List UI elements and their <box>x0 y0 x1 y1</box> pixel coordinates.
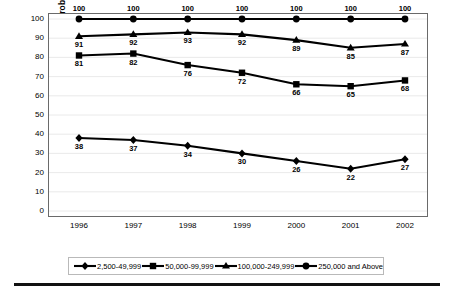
diamond-marker-icon <box>73 260 97 272</box>
data-point-marker <box>239 16 246 23</box>
x-tick-label: 1997 <box>124 221 142 230</box>
data-label: 100 <box>290 5 303 13</box>
chart-page: Percent Reporting Gang Problems 01020304… <box>0 0 454 295</box>
data-point-marker <box>76 16 83 23</box>
data-point-marker <box>130 136 137 144</box>
y-tick-label: 100 <box>20 15 44 23</box>
bottom-divider <box>14 283 440 286</box>
data-label: 100 <box>236 5 249 13</box>
data-label: 100 <box>399 5 412 13</box>
legend-item-label: 50,000-99,999 <box>165 262 213 271</box>
triangle-marker-icon <box>214 260 238 272</box>
y-tick-label: 90 <box>20 34 44 42</box>
x-tick-label: 1999 <box>233 221 251 230</box>
data-point-marker <box>303 263 310 270</box>
data-point-marker <box>130 16 137 23</box>
circle-marker-icon <box>294 260 318 272</box>
chart-canvas <box>49 14 427 216</box>
data-label: 100 <box>127 5 140 13</box>
y-tick-label: 50 <box>20 111 44 119</box>
data-point-marker <box>184 16 191 23</box>
legend-item-label: 2,500-49,999 <box>97 262 141 271</box>
x-tick-label: 2001 <box>342 221 360 230</box>
x-tick-label: 2000 <box>287 221 305 230</box>
x-tick-label: 1998 <box>179 221 197 230</box>
x-tick-label: 2002 <box>396 221 414 230</box>
chart-legend: 2,500-49,99950,000-99,999100,000-249,999… <box>68 257 384 275</box>
y-axis-tick-labels: 0102030405060708090100 <box>18 13 44 217</box>
data-point-marker <box>402 77 408 83</box>
x-tick-label: 1996 <box>70 221 88 230</box>
legend-item-label: 250,000 and Above <box>318 262 383 271</box>
legend-item-label: 100,000-249,999 <box>238 262 295 271</box>
legend-item[interactable]: 2,500-49,999 <box>73 260 141 272</box>
y-tick-label: 0 <box>20 207 44 215</box>
data-point-marker <box>347 165 354 173</box>
data-point-marker <box>184 62 190 68</box>
data-label: 100 <box>73 5 86 13</box>
data-point-marker <box>81 262 88 270</box>
data-point-marker <box>184 142 191 150</box>
data-point-marker <box>401 155 408 163</box>
y-tick-label: 30 <box>20 149 44 157</box>
data-point-marker <box>347 16 354 23</box>
data-point-marker <box>402 16 409 23</box>
legend-item[interactable]: 100,000-249,999 <box>214 260 295 272</box>
data-point-marker <box>76 52 82 58</box>
y-tick-label: 40 <box>20 130 44 138</box>
legend-item[interactable]: 250,000 and Above <box>294 260 383 272</box>
data-label: 100 <box>344 5 357 13</box>
square-marker-icon <box>141 260 165 272</box>
y-tick-label: 70 <box>20 73 44 81</box>
data-point-marker <box>293 81 299 87</box>
data-point-marker <box>75 134 82 142</box>
legend-item[interactable]: 50,000-99,999 <box>141 260 213 272</box>
data-point-marker <box>239 70 245 76</box>
y-tick-label: 20 <box>20 169 44 177</box>
x-axis-tick-labels: 1996199719981999200020012002 <box>48 221 428 235</box>
data-point-marker <box>130 50 136 56</box>
data-label: 100 <box>181 5 194 13</box>
y-tick-label: 10 <box>20 188 44 196</box>
y-tick-label: 60 <box>20 92 44 100</box>
plot-area <box>48 13 428 217</box>
data-point-marker <box>293 16 300 23</box>
y-tick-label: 80 <box>20 53 44 61</box>
data-point-marker <box>347 83 353 89</box>
data-point-marker <box>150 263 156 269</box>
data-point-marker <box>293 157 300 165</box>
data-point-marker <box>238 149 245 157</box>
